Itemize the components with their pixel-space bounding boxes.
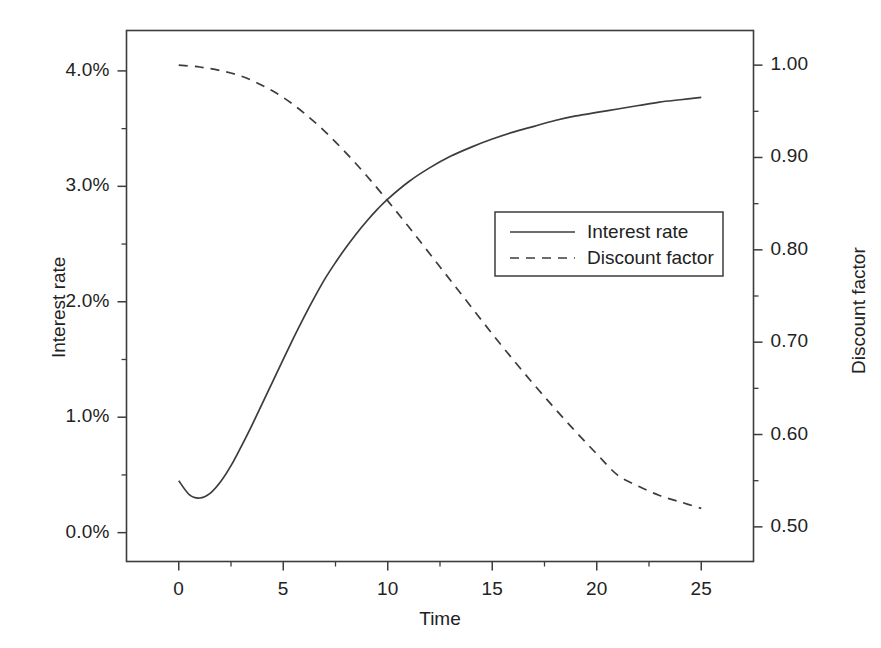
y-tick-label: 4.0% [0, 59, 110, 81]
x-tick-label: 25 [641, 578, 761, 600]
x-axis-title: Time [380, 608, 500, 630]
y2-tick-label: 0.80 [771, 238, 809, 260]
x-tick-label: 5 [223, 578, 343, 600]
x-tick-label: 0 [119, 578, 239, 600]
series-line-interest-rate [179, 97, 702, 498]
x-tick-label: 15 [432, 578, 552, 600]
legend-label-interest-rate: Interest rate [587, 221, 688, 243]
y-axis-title: Interest rate [48, 257, 70, 358]
y-tick-label: 0.0% [0, 521, 110, 543]
y2-tick-label: 0.50 [771, 515, 809, 537]
chart-plot-area [0, 0, 881, 648]
y2-tick-label: 1.00 [771, 53, 809, 75]
y2-tick-label: 0.60 [771, 423, 809, 445]
x-tick-label: 20 [537, 578, 657, 600]
series-line-discount-factor [179, 65, 702, 508]
x-tick-label: 10 [328, 578, 448, 600]
y2-tick-label: 0.90 [771, 145, 809, 167]
legend-label-discount-factor: Discount factor [587, 247, 714, 269]
y2-tick-label: 0.70 [771, 330, 809, 352]
y2-axis-title: Discount factor [848, 247, 870, 374]
chart-figure: Interest rateDiscount factor0.0%1.0%2.0%… [0, 0, 881, 648]
y-tick-label: 1.0% [0, 405, 110, 427]
y-tick-label: 3.0% [0, 174, 110, 196]
